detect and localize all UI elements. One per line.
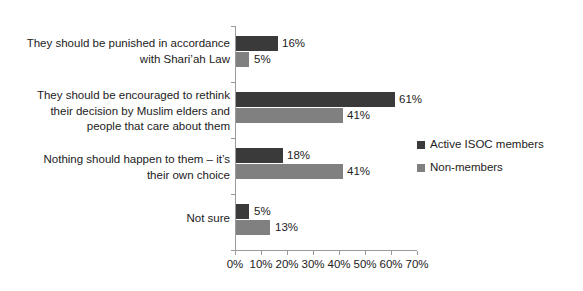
category-label-2-line-0: Nothing should happen to them – it’s [8, 152, 230, 168]
cropped-chart-title: . [162, 0, 174, 4]
category-label-2-line-1: their own choice [8, 168, 230, 184]
bar-group-1-series-1 [236, 108, 343, 123]
bar-group-3-series-1 [236, 220, 270, 235]
x-axis-tick-3 [313, 251, 314, 255]
category-label-1-line-2: people that care about them [8, 119, 230, 135]
bar-value-group-0-series-0: 16% [282, 36, 305, 51]
legend-swatch-icon-0 [417, 141, 425, 149]
x-axis-tick-7 [417, 251, 418, 255]
x-axis-line [235, 250, 417, 251]
bar-group-3-series-0 [236, 204, 249, 219]
bar-group-2-series-0 [236, 148, 283, 163]
bar-group-0-series-1 [236, 52, 249, 67]
x-axis-tick-2 [287, 251, 288, 255]
category-label-1-line-0: They should be encouraged to rethink [8, 88, 230, 104]
category-label-0-line-1: with Shari’ah Law [8, 52, 230, 68]
category-label-3-line-0: Not sure [8, 211, 230, 227]
x-axis-label-7: 70% [402, 258, 432, 271]
legend-swatch-icon-1 [417, 164, 425, 172]
x-axis-tick-4 [339, 251, 340, 255]
y-axis-tick-1 [231, 82, 235, 83]
legend-item-non-members[interactable]: Non-members [417, 161, 503, 174]
bar-group-2-series-1 [236, 164, 343, 179]
legend-label-0: Active ISOC members [430, 138, 544, 151]
x-axis-tick-0 [235, 251, 236, 255]
category-label-0-line-0: They should be punished in accordance [8, 36, 230, 52]
x-axis-tick-5 [365, 251, 366, 255]
category-label-1: They should be encouraged to rethink the… [8, 88, 230, 135]
x-axis-tick-1 [261, 251, 262, 255]
bar-value-group-0-series-1: 5% [254, 52, 271, 67]
category-label-1-line-1: their decision by Muslim elders and [8, 104, 230, 120]
bar-value-group-1-series-1: 41% [347, 108, 370, 123]
bar-value-group-2-series-0: 18% [287, 148, 310, 163]
y-axis-tick-2 [231, 138, 235, 139]
x-axis-tick-6 [391, 251, 392, 255]
bar-value-group-3-series-1: 13% [275, 220, 298, 235]
bar-value-group-3-series-0: 5% [254, 204, 271, 219]
chart-screenshot: . They should be punished in accordance … [0, 0, 583, 291]
category-label-3: Not sure [8, 211, 230, 227]
bar-value-group-2-series-1: 41% [347, 164, 370, 179]
bar-group-1-series-0 [236, 92, 395, 107]
y-axis-tick-0 [231, 26, 235, 27]
y-axis-tick-3 [231, 194, 235, 195]
bar-value-group-1-series-0: 61% [399, 92, 422, 107]
category-label-0: They should be punished in accordance wi… [8, 36, 230, 67]
legend-label-1: Non-members [430, 161, 503, 174]
bar-group-0-series-0 [236, 36, 278, 51]
plot-area: 16% 5% 61% 41% 18% 41% 5% 13% 0% 10% 20%… [235, 26, 417, 250]
category-label-2: Nothing should happen to them – it’s the… [8, 152, 230, 183]
legend-item-active-isoc-members[interactable]: Active ISOC members [417, 138, 544, 151]
